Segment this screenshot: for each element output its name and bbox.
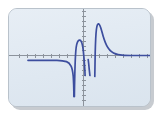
curve-branch-right-lower — [88, 60, 90, 76]
function-curve — [28, 24, 150, 97]
calculator-screen[interactable] — [8, 8, 151, 107]
curve-branch-left — [28, 60, 74, 96]
graph-plot — [9, 9, 150, 106]
screenshot-root — [0, 0, 163, 118]
curve-branch-right — [95, 24, 150, 77]
